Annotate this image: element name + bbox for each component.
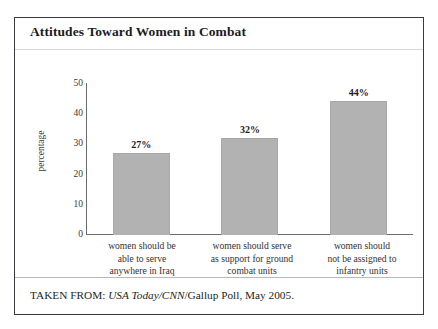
figure-frame: Attitudes Toward Women in Combat percent… bbox=[14, 17, 424, 315]
category-label-1-line-1: women should be bbox=[88, 240, 197, 253]
category-label-3-line-2: not be assigned to bbox=[308, 253, 417, 266]
y-tick-20: 20 bbox=[41, 169, 83, 179]
title-band: Attitudes Toward Women in Combat bbox=[15, 18, 423, 49]
bar-1 bbox=[113, 153, 170, 235]
category-label-2-line-3: combat units bbox=[198, 265, 307, 278]
bars-layer: 27% 32% 44% bbox=[87, 83, 413, 235]
category-label-2-line-1: women should serve bbox=[198, 240, 307, 253]
x-axis-category-labels: women should be able to serve anywhere i… bbox=[87, 240, 417, 278]
category-label-3: women should not be assigned to infantry… bbox=[308, 240, 417, 278]
source-suffix: /Gallup Poll, May 2005. bbox=[184, 289, 294, 301]
bar-2 bbox=[221, 138, 278, 235]
category-label-1: women should be able to serve anywhere i… bbox=[88, 240, 197, 278]
y-axis-tick-labels: 50 40 30 20 10 0 bbox=[41, 50, 83, 240]
y-tick-40: 40 bbox=[41, 108, 83, 118]
plot-region: percentage 50 40 30 20 10 0 27% 32% 44% bbox=[15, 50, 423, 277]
category-label-2: women should serve as support for ground… bbox=[198, 240, 307, 278]
category-label-3-line-3: infantry units bbox=[308, 265, 417, 278]
bar-value-1: 27% bbox=[131, 140, 151, 150]
source-citation: TAKEN FROM: USA Today/CNN/Gallup Poll, M… bbox=[30, 289, 294, 301]
y-tick-10: 10 bbox=[41, 199, 83, 209]
bar-3 bbox=[330, 101, 387, 235]
chart-title: Attitudes Toward Women in Combat bbox=[30, 24, 246, 40]
category-label-1-line-2: able to serve bbox=[88, 253, 197, 266]
bar-group-3: 44% bbox=[305, 83, 413, 235]
bar-group-2: 32% bbox=[196, 83, 304, 235]
source-band: TAKEN FROM: USA Today/CNN/Gallup Poll, M… bbox=[15, 278, 423, 315]
category-label-2-line-2: as support for ground bbox=[198, 253, 307, 266]
y-tick-30: 30 bbox=[41, 138, 83, 148]
bar-group-1: 27% bbox=[88, 83, 196, 235]
y-tick-0: 0 bbox=[41, 229, 83, 239]
bar-value-3: 44% bbox=[349, 88, 369, 98]
bar-value-2: 32% bbox=[240, 125, 260, 135]
source-prefix: TAKEN FROM: bbox=[30, 289, 108, 301]
source-publication: USA Today/CNN bbox=[108, 289, 184, 301]
category-label-3-line-1: women should bbox=[308, 240, 417, 253]
category-label-1-line-3: anywhere in Iraq bbox=[88, 265, 197, 278]
y-tick-50: 50 bbox=[41, 78, 83, 88]
